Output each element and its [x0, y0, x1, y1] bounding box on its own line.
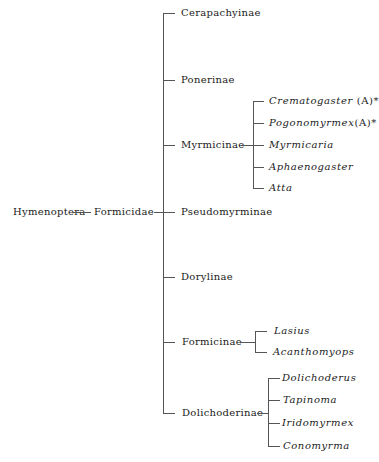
node-genus-dolichoderus: Dolichoderus: [282, 372, 356, 384]
branch-myrmicaria: [253, 145, 264, 146]
branch-myrmicinae: [163, 145, 175, 146]
branch-acanthomyops: [255, 352, 267, 353]
node-subfamily-pseudomyrminae: Pseudomyrminae: [181, 206, 273, 218]
node-genus-tapinoma: Tapinoma: [283, 394, 337, 406]
branch-lasius: [255, 331, 267, 332]
subfamily-trunk-line: [163, 13, 164, 414]
genus-note: (A)*: [357, 95, 379, 106]
node-family: Formicidae: [94, 206, 154, 218]
connector-formicinae-genera: [240, 342, 256, 343]
dolichoderinae-genera-line: [268, 378, 269, 447]
branch-formicinae: [163, 342, 175, 343]
branch-conomyrma: [268, 446, 280, 447]
node-genus-acanthomyops: Acanthomyops: [273, 346, 355, 358]
branch-pogonomyrmex: [253, 123, 264, 124]
branch-iridomyrmex: [268, 423, 280, 424]
node-genus-pogonomyrmex: Pogonomyrmex(A)*: [269, 117, 377, 129]
node-subfamily-myrmicinae: Myrmicinae: [181, 139, 244, 151]
connector-order-family: [73, 212, 91, 213]
branch-tapinoma: [268, 400, 280, 401]
genus-name: Pogonomyrmex: [269, 117, 354, 128]
branch-dolichoderus: [268, 378, 280, 379]
genus-note: (A)*: [354, 117, 376, 128]
node-subfamily-ponerinae: Ponerinae: [181, 74, 235, 86]
branch-dorylinae: [163, 277, 175, 278]
node-genus-crematogaster: Crematogaster (A)*: [269, 95, 379, 107]
node-genus-aphaenogaster: Aphaenogaster: [269, 161, 353, 173]
branch-cerapachyinae: [163, 13, 175, 14]
branch-atta: [253, 188, 264, 189]
node-genus-iridomyrmex: Iridomyrmex: [282, 417, 354, 429]
node-subfamily-cerapachyinae: Cerapachyinae: [181, 7, 261, 19]
node-subfamily-dolichoderinae: Dolichoderinae: [182, 407, 263, 419]
branch-dolichoderinae: [163, 413, 175, 414]
branch-ponerinae: [163, 80, 175, 81]
branch-pseudomyrminae: [163, 212, 175, 213]
node-genus-lasius: Lasius: [274, 325, 310, 337]
formicinae-genera-line: [255, 331, 256, 353]
node-subfamily-formicinae: Formicinae: [182, 336, 242, 348]
node-genus-atta: Atta: [269, 182, 292, 194]
node-subfamily-dorylinae: Dorylinae: [181, 271, 233, 283]
genus-name: Crematogaster: [269, 95, 353, 106]
branch-crematogaster: [253, 101, 264, 102]
node-genus-myrmicaria: Myrmicaria: [269, 139, 334, 151]
node-genus-conomyrma: Conomyrma: [283, 440, 350, 452]
branch-aphaenogaster: [253, 167, 264, 168]
